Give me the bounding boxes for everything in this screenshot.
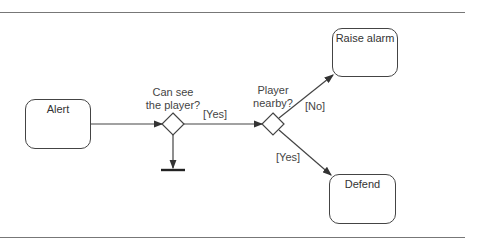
- guard-can-see-yes: [Yes]: [203, 108, 227, 121]
- state-alert: Alert: [25, 99, 91, 149]
- state-alert-label: Alert: [47, 103, 70, 115]
- state-defend-label: Defend: [345, 178, 380, 190]
- decision-nearby-label: Player nearby?: [251, 84, 295, 110]
- guard-nearby-no: [No]: [305, 100, 325, 113]
- decision-diamond-can-see: [162, 113, 184, 135]
- guard-nearby-yes: [Yes]: [276, 151, 300, 164]
- state-raise-alarm: Raise alarm: [332, 28, 398, 77]
- state-raise-alarm-label: Raise alarm: [336, 32, 395, 44]
- state-defend: Defend: [329, 174, 396, 224]
- decision-can-see-label: Can see the player?: [143, 86, 203, 112]
